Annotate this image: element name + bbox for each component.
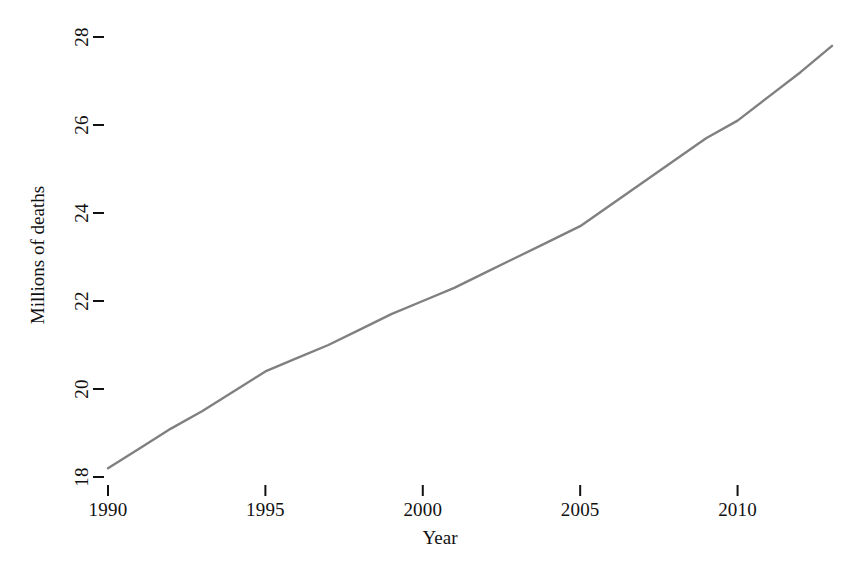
x-axis-tick-marks	[108, 485, 738, 496]
y-tick-label-3: 24	[71, 193, 93, 233]
data-line-series	[108, 46, 832, 468]
line-chart-plot	[0, 0, 867, 576]
y-tick-label-4: 26	[71, 105, 93, 145]
x-tick-label-3: 2005	[545, 499, 615, 521]
y-tick-label-5: 28	[71, 17, 93, 57]
x-tick-label-4: 2010	[703, 499, 773, 521]
x-tick-label-1: 1995	[230, 499, 300, 521]
x-tick-label-0: 1990	[73, 499, 143, 521]
y-tick-label-0: 18	[71, 457, 93, 497]
y-tick-label-1: 20	[71, 369, 93, 409]
y-axis-tick-marks	[93, 37, 104, 477]
x-tick-label-2: 2000	[388, 499, 458, 521]
x-axis-title: Year	[340, 527, 540, 549]
y-axis-title: Millions of deaths	[27, 155, 49, 355]
chart-figure: 18 20 22 24 26 28 1990 1995 2000 2005 20…	[0, 0, 867, 576]
y-tick-label-2: 22	[71, 281, 93, 321]
